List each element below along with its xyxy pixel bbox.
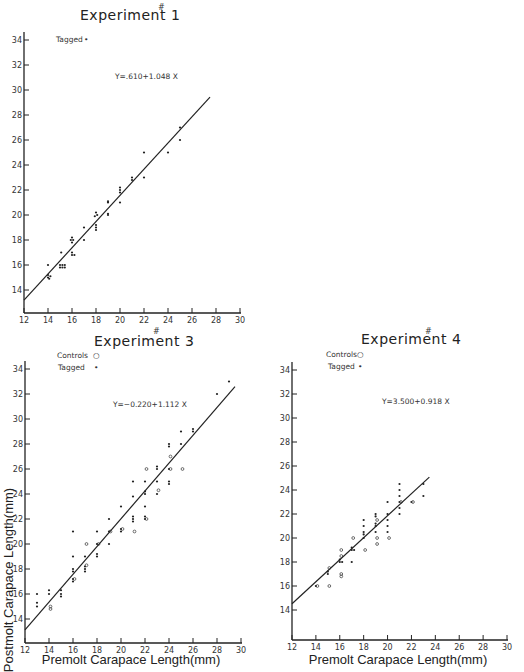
regression-equation: Y=−0.220+1.112 X xyxy=(112,400,187,409)
y-tick-label: 30 xyxy=(13,415,23,424)
tagged-point xyxy=(72,580,74,582)
tagged-point xyxy=(375,531,377,533)
x-tick-label: 28 xyxy=(478,643,488,652)
tagged-point xyxy=(61,264,63,266)
tagged-point xyxy=(132,520,134,522)
tagged-point xyxy=(144,490,146,492)
tagged-point xyxy=(386,531,388,533)
legend-tagged-marker: • xyxy=(84,35,88,44)
tagged-point xyxy=(84,555,86,557)
control-point xyxy=(85,543,88,546)
tagged-point xyxy=(192,430,194,432)
tagged-point xyxy=(107,200,109,202)
tagged-point xyxy=(216,393,218,395)
tagged-point xyxy=(120,530,122,532)
y-tick-label: 26 xyxy=(12,136,22,145)
legend-tagged-label: Tagged xyxy=(55,35,83,44)
chart-experiment-1: Experiment1 # Tagged • Y=.610+1.048 X 12… xyxy=(12,3,245,325)
x-tick-label: 26 xyxy=(188,646,198,655)
tagged-point xyxy=(144,515,146,517)
tagged-point xyxy=(84,570,86,572)
x-tick-label: 12 xyxy=(19,316,29,325)
tagged-point xyxy=(363,537,365,539)
tagged-point xyxy=(95,229,97,231)
tagged-point xyxy=(168,480,170,482)
tagged-point xyxy=(156,468,158,470)
tagged-point xyxy=(72,568,74,570)
tagged-point xyxy=(386,519,388,521)
tagged-point xyxy=(168,443,170,445)
legend-tagged-marker: • xyxy=(94,363,98,372)
tagged-point xyxy=(96,530,98,532)
tagged-point xyxy=(339,561,341,563)
tagged-point xyxy=(131,176,133,178)
tagged-point xyxy=(70,239,72,241)
tagged-point xyxy=(72,555,74,557)
x-tick-label: 26 xyxy=(454,643,464,652)
y-tick-label: 32 xyxy=(280,390,290,399)
tagged-point xyxy=(363,525,365,527)
x-tick-label: 16 xyxy=(335,643,345,652)
tagged-point xyxy=(353,549,355,551)
tagged-point xyxy=(132,515,134,517)
chart-title: Experiment1 xyxy=(80,7,180,23)
tagged-point xyxy=(108,518,110,520)
tagged-point xyxy=(351,561,353,563)
x-tick-label: 18 xyxy=(359,643,369,652)
data-points xyxy=(36,380,230,610)
control-point xyxy=(157,489,160,492)
tagged-point xyxy=(72,570,74,572)
tagged-point xyxy=(180,430,182,432)
y-tick-label: 14 xyxy=(13,615,23,624)
y-tick-label: 16 xyxy=(13,590,23,599)
tagged-point xyxy=(59,264,61,266)
data-points xyxy=(315,483,425,587)
tagged-point xyxy=(327,571,329,573)
control-point xyxy=(376,519,379,522)
y-tick-label: 26 xyxy=(280,462,290,471)
control-point xyxy=(364,549,367,552)
tagged-point xyxy=(143,151,145,153)
tagged-point xyxy=(60,593,62,595)
control-point xyxy=(352,537,355,540)
regression-equation: Y=3.500+0.918 X xyxy=(381,397,450,406)
tagged-point xyxy=(119,201,121,203)
x-tick-label: 12 xyxy=(287,643,297,652)
x-tick-label: 30 xyxy=(236,646,246,655)
y-tick-label: 24 xyxy=(13,490,23,499)
tagged-point xyxy=(386,525,388,527)
tagged-point xyxy=(36,602,38,604)
control-point xyxy=(388,537,391,540)
x-tick-label: 30 xyxy=(235,316,245,325)
y-tick-label: 20 xyxy=(12,211,22,220)
chart-experiment-3: Experiment3 # Controls ○ Tagged • Y=−0.2… xyxy=(1,327,246,672)
tagged-point xyxy=(60,251,62,253)
tagged-point xyxy=(73,254,75,256)
tagged-point xyxy=(95,226,97,228)
tagged-point xyxy=(363,533,365,535)
x-tick-label: 16 xyxy=(67,316,77,325)
tagged-point xyxy=(144,480,146,482)
data-points xyxy=(47,126,181,279)
tagged-point xyxy=(95,224,97,226)
tagged-point xyxy=(132,480,134,482)
tagged-point xyxy=(48,278,50,280)
tagged-point xyxy=(156,493,158,495)
figure-canvas: Experiment1 # Tagged • Y=.610+1.048 X 12… xyxy=(0,0,524,672)
tagged-point xyxy=(71,236,73,238)
x-tick-label: 30 xyxy=(502,643,512,652)
tagged-point xyxy=(72,530,74,532)
x-tick-label: 24 xyxy=(163,316,173,325)
regression-equation: Y=.610+1.048 X xyxy=(114,72,178,81)
legend-controls-label: Controls xyxy=(326,350,357,359)
tagged-point xyxy=(36,605,38,607)
control-point xyxy=(340,549,343,552)
tagged-point xyxy=(351,549,353,551)
tagged-point xyxy=(49,275,51,277)
y-tick-label: 28 xyxy=(12,111,22,120)
tagged-point xyxy=(96,555,98,557)
tagged-point xyxy=(144,505,146,507)
y-tick-label: 16 xyxy=(12,261,22,270)
x-tick-label: 16 xyxy=(68,646,78,655)
y-tick-label: 28 xyxy=(280,438,290,447)
